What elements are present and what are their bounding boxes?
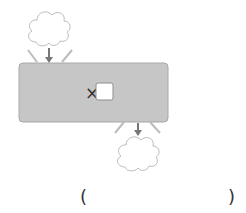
- function-machine-diagram: ×: [0, 0, 246, 213]
- answer-open-paren: (: [80, 188, 87, 206]
- input-cloud-icon: [29, 12, 71, 46]
- ray-right-top: [62, 50, 72, 62]
- arrow-down-icon: [45, 48, 53, 63]
- ray-left-top: [28, 50, 37, 62]
- answer-close-paren: ): [228, 188, 235, 206]
- blank-answer-square[interactable]: [96, 83, 113, 100]
- output-cloud-icon: [118, 137, 160, 171]
- ray-right-bottom: [150, 122, 160, 133]
- arrow-down-icon: [134, 123, 142, 136]
- ray-left-bottom: [115, 122, 124, 133]
